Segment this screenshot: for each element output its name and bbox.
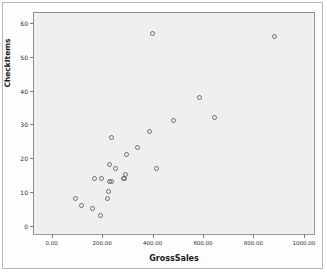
scatter-point [105, 196, 110, 201]
plot-data-area: 01020304050600.00200.00400.00600.00800.0… [34, 13, 314, 234]
y-axis-tick [30, 158, 34, 159]
scatter-point [106, 189, 111, 194]
scatter-point [98, 213, 103, 218]
scatter-chart: 01020304050600.00200.00400.00600.00800.0… [6, 5, 320, 265]
y-axis-tick-label: 30 [20, 121, 28, 128]
x-axis-tick [52, 234, 53, 238]
y-axis-tick [30, 91, 34, 92]
y-axis-tick [30, 192, 34, 193]
scatter-point [99, 176, 104, 181]
y-axis-tick-label: 40 [20, 87, 28, 94]
scatter-point [109, 135, 114, 140]
scatter-point [150, 31, 155, 36]
y-axis-title: CheckItems [3, 3, 12, 123]
scatter-point [171, 118, 176, 123]
scatter-point [197, 95, 202, 100]
scatter-point [135, 145, 140, 150]
scatter-point [107, 162, 112, 167]
scatter-point [272, 34, 277, 39]
x-axis-tick-label: 1000.00 [293, 240, 316, 246]
screenshot-root: 01020304050600.00200.00400.00600.00800.0… [0, 0, 327, 273]
x-axis-tick [304, 234, 305, 238]
y-axis-tick-label: 20 [20, 155, 28, 162]
scatter-point [113, 166, 118, 171]
y-axis-tick-label: 60 [20, 20, 28, 27]
scatter-point [109, 179, 114, 184]
plot-panel: 01020304050600.00200.00400.00600.00800.0… [33, 12, 315, 235]
scatter-point [73, 196, 78, 201]
x-axis-tick-label: 200.00 [92, 240, 111, 246]
y-axis-tick-label: 10 [20, 188, 28, 195]
y-axis-tick-label: 0 [24, 222, 28, 229]
y-axis-tick [30, 226, 34, 227]
x-axis-tick [253, 234, 254, 238]
x-axis-tick-label: 800.00 [244, 240, 263, 246]
scatter-point [212, 115, 217, 120]
scatter-point [90, 206, 95, 211]
x-axis-tick-label: 0.00 [46, 240, 58, 246]
scatter-point [154, 166, 159, 171]
scatter-point [147, 129, 152, 134]
y-axis-tick [30, 124, 34, 125]
scatter-point [124, 152, 129, 157]
scatter-point [79, 203, 84, 208]
y-axis-tick [30, 57, 34, 58]
y-axis-tick [30, 23, 34, 24]
x-axis-tick-label: 600.00 [193, 240, 212, 246]
x-axis-tick [203, 234, 204, 238]
x-axis-tick [102, 234, 103, 238]
x-axis-tick-label: 400.00 [143, 240, 162, 246]
x-axis-tick [153, 234, 154, 238]
scatter-point [92, 176, 97, 181]
scatter-point [123, 172, 128, 177]
x-axis-title: GrossSales [33, 254, 315, 263]
y-axis-tick-label: 50 [20, 53, 28, 60]
